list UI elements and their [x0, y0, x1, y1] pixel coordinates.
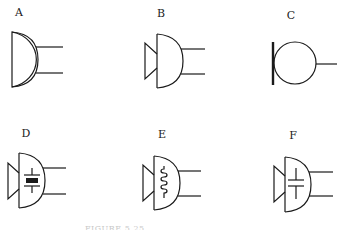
figure-caption: FIGURE 5.25	[85, 224, 145, 230]
symbol-label-f: F	[289, 130, 297, 141]
symbol-label-d: D	[22, 128, 31, 139]
symbol-label-e: E	[158, 129, 166, 140]
symbol-e-dynamic-microphone-icon	[143, 156, 201, 210]
symbol-a-basic-microphone-icon	[12, 32, 63, 87]
symbol-label-a: A	[15, 7, 23, 18]
symbol-b-horn-microphone-icon	[145, 34, 205, 88]
symbol-label-b: B	[157, 8, 165, 19]
symbol-f-condenser-microphone-icon	[274, 157, 333, 212]
symbol-d-crystal-microphone-icon	[8, 153, 66, 208]
symbol-label-c: C	[287, 10, 295, 21]
symbol-c-circle-microphone-icon	[273, 42, 337, 85]
diagram-canvas: A B C D E F FIGURE 5.25	[0, 0, 338, 230]
